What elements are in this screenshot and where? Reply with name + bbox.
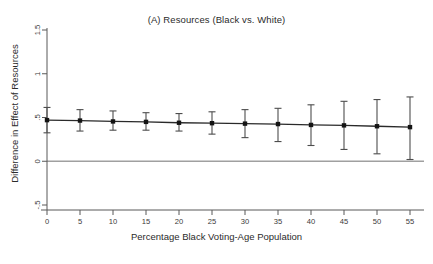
x-axis-tick-label: 35 [274,217,282,226]
x-axis-tick-label: 10 [109,217,117,226]
data-point-marker [243,121,247,125]
x-axis-tick-label: 45 [340,217,348,226]
x-axis-tick-label: 20 [175,217,183,226]
x-axis-tick-label: 5 [78,217,82,226]
y-axis-tick-label: 1.5 [33,25,42,36]
x-axis-tick-label: 55 [406,217,414,226]
data-point-group [275,108,282,141]
data-point-marker [408,125,412,129]
plot-area: -.50.511.50510152025303540455055 [0,0,433,264]
data-point-marker [177,121,181,125]
trend-line [47,120,410,127]
x-axis-tick-label: 30 [241,217,249,226]
y-axis-tick-label: -.5 [33,201,42,210]
data-point-marker [78,118,82,122]
x-axis-tick-label: 50 [373,217,381,226]
data-point-marker [375,124,379,128]
chart-figure: (A) Resources (Black vs. White) Differen… [0,0,433,264]
data-point-marker [144,120,148,124]
data-point-marker [45,118,49,122]
data-point-marker [309,123,313,127]
data-point-marker [276,122,280,126]
x-axis-tick-label: 40 [307,217,315,226]
y-axis-tick-label: .5 [33,114,42,120]
data-point-group [110,111,117,130]
data-point-marker [210,121,214,125]
x-axis-tick-label: 0 [45,217,49,226]
x-axis-tick-label: 25 [208,217,216,226]
data-point-marker [111,119,115,123]
x-axis-tick-label: 15 [142,217,150,226]
y-axis-tick-label: 1 [33,72,42,76]
data-point-group [407,97,414,160]
y-axis-tick-label: 0 [33,159,42,163]
data-point-marker [342,123,346,127]
